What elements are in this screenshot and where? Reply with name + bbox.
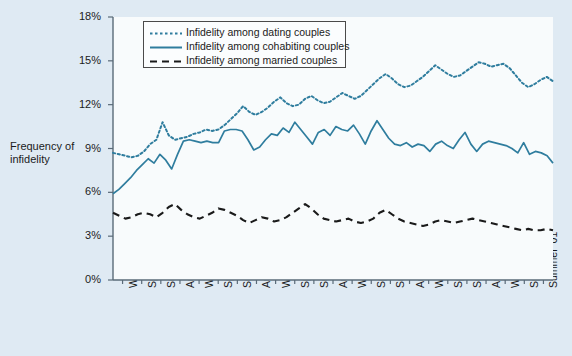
legend-label-dating: Infidelity among dating couples bbox=[186, 26, 330, 38]
chart-container: Frequency of infidelity 0%3%6%9%12%15%18… bbox=[0, 0, 572, 356]
legend-label-married: Infidelity among married couples bbox=[186, 54, 337, 66]
legend-label-cohabiting: Infidelity among cohabiting couples bbox=[186, 40, 349, 52]
legend-swatch-cohabiting bbox=[150, 46, 182, 49]
legend-swatch-married bbox=[150, 60, 182, 63]
chart-legend: Infidelity among dating couples Infideli… bbox=[143, 21, 346, 68]
legend-swatch-dating bbox=[150, 32, 182, 35]
